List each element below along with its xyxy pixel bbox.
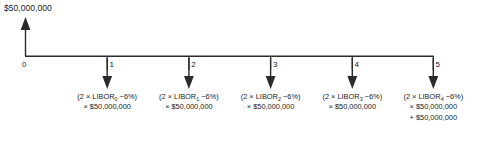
tick-label-3: 3 — [273, 60, 277, 69]
tick-label-2: 2 — [191, 60, 195, 69]
inflow-arrow-t0 — [21, 17, 31, 56]
cashflow-line: × $50,000,000 — [385, 102, 479, 112]
tick-label-0: 0 — [22, 60, 26, 69]
tick-label-5: 5 — [436, 60, 440, 69]
cashflow-line: + $50,000,000 — [385, 113, 479, 123]
timeline-axis-layer — [0, 0, 479, 146]
cash-flow-timeline-diagram: $50,000,000 — [0, 0, 479, 146]
cashflow-label-t5: (2 × LIBOR4 −6%)× $50,000,000+ $50,000,0… — [385, 92, 479, 123]
cashflow-line: (2 × LIBOR4 −6%) — [385, 92, 479, 102]
tick-label-4: 4 — [355, 60, 359, 69]
tick-label-1: 1 — [110, 60, 114, 69]
